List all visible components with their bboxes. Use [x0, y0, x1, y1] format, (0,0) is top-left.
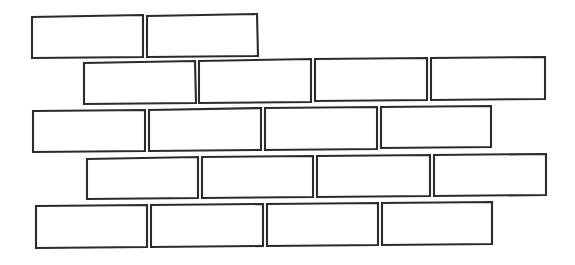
- brick-r5-c3: [267, 203, 378, 246]
- brick-r3-c3: [265, 107, 377, 150]
- brick-r2-c1: [84, 61, 196, 104]
- brick-r4-c2: [202, 156, 313, 198]
- brick-r4-c3: [317, 155, 430, 197]
- brick-row-4: [87, 154, 546, 199]
- brick-r4-c1: [87, 157, 198, 199]
- brick-row-3: [33, 106, 491, 152]
- brick-wall-group: [32, 14, 546, 248]
- brick-r2-c3: [315, 58, 427, 101]
- brick-r1-c1: [32, 15, 143, 58]
- brick-row-1: [32, 14, 258, 58]
- brick-r3-c1: [33, 110, 145, 152]
- brick-r3-c2: [149, 108, 261, 151]
- brick-r2-c4: [431, 57, 545, 100]
- brick-r1-c2: [147, 14, 258, 57]
- brick-r2-c2: [199, 59, 311, 103]
- brick-r3-c4: [381, 106, 491, 148]
- brick-r5-c4: [382, 202, 492, 245]
- brick-r5-c1: [36, 205, 147, 248]
- brick-wall-canvas: [0, 0, 575, 265]
- brick-r4-c4: [434, 154, 546, 196]
- brick-wall-illustration: [0, 0, 575, 265]
- brick-r5-c2: [151, 204, 263, 247]
- brick-row-5: [36, 202, 492, 248]
- brick-row-2: [84, 57, 545, 104]
